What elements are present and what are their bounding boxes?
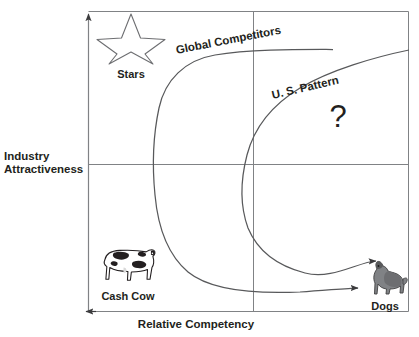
cow-icon	[104, 250, 155, 281]
quadrant-label-cash-cow: Cash Cow	[101, 290, 154, 302]
question-mark-annotation: ?	[329, 100, 346, 135]
dog-icon	[374, 261, 407, 294]
y-axis-label: Industry Attractiveness	[4, 150, 83, 176]
diagram-canvas: Industry Attractiveness Relative Compete…	[0, 0, 419, 337]
quadrant-label-dogs: Dogs	[371, 300, 399, 312]
star-icon	[97, 14, 165, 64]
x-axis-label: Relative Competency	[138, 318, 254, 331]
quadrant-label-stars: Stars	[117, 68, 145, 80]
